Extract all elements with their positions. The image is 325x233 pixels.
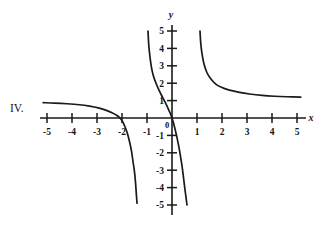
y-axis-label: y — [168, 9, 174, 20]
curve-branch-lower-middle — [172, 118, 187, 205]
x-axis-label: x — [308, 112, 314, 123]
y-tick-label: 1 — [159, 96, 164, 106]
x-tick-label: 4 — [270, 127, 275, 137]
y-tick-label: 3 — [159, 61, 164, 71]
x-tick-label: 1 — [195, 127, 200, 137]
curve-branch-upper-right — [200, 31, 301, 97]
coordinate-plot: -5-4-3-2-112345 -5-4-3-2-112345 x y 0 IV… — [0, 0, 325, 233]
y-tick-label: -4 — [156, 183, 164, 193]
x-tick-label: -3 — [93, 127, 101, 137]
y-tick-label: -1 — [156, 131, 164, 141]
x-tick-label: -1 — [143, 127, 151, 137]
x-tick-label: -5 — [43, 127, 51, 137]
y-tick-label: -2 — [156, 148, 164, 158]
y-tick-label: -5 — [156, 200, 164, 210]
y-tick-label: -3 — [156, 166, 164, 176]
figure-panel: -5-4-3-2-112345 -5-4-3-2-112345 x y 0 IV… — [0, 0, 325, 233]
y-tick-label: 4 — [159, 44, 164, 54]
figure-label: IV. — [10, 102, 24, 114]
x-tick-label: 3 — [245, 127, 250, 137]
x-tick-label: 2 — [220, 127, 225, 137]
x-tick-label: -2 — [118, 127, 126, 137]
y-tick-label: 2 — [159, 79, 164, 89]
x-tick-label: 5 — [295, 127, 300, 137]
origin-label: 0 — [165, 120, 169, 130]
y-tick-label: 5 — [159, 26, 164, 36]
x-tick-label: -4 — [68, 127, 76, 137]
